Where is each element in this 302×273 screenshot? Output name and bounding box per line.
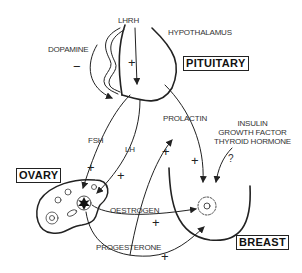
sign-lh: +: [117, 169, 125, 182]
label-pituitary: PITUITARY: [183, 56, 249, 71]
label-breast: BREAST: [236, 235, 289, 250]
label-lhrh: LHRH: [118, 16, 139, 25]
sign-fsh: +: [87, 161, 95, 174]
sign-other-factors: ?: [228, 154, 233, 163]
label-hypothalamus: HYPOTHALAMUS: [168, 28, 232, 37]
label-ovary: OVARY: [16, 168, 61, 183]
label-thyroid-hormone: THYROID HORMONE: [214, 137, 291, 146]
breast-cell: [198, 197, 216, 215]
sign-progesterone: +: [161, 250, 169, 263]
hormone-regulation-diagram: LHRH HYPOTHALAMUS DOPAMINE − + PITUITARY…: [0, 0, 302, 273]
pituitary-stalk: [119, 25, 125, 95]
sign-dopamine: −: [73, 60, 81, 73]
label-lh: LH: [125, 145, 135, 154]
label-progesterone: PROGESTERONE: [96, 243, 161, 252]
corpus-luteum: [78, 197, 90, 210]
label-insulin: INSULIN: [214, 119, 291, 128]
label-growth-factor: GROWTH FACTOR: [214, 128, 291, 137]
sign-lhrh: +: [128, 56, 136, 69]
label-prolactin: PROLACTIN: [163, 114, 207, 123]
ovary-outline: [37, 180, 108, 234]
label-oestrogen: OESTROGEN: [110, 206, 159, 215]
label-dopamine: DOPAMINE: [48, 45, 88, 54]
label-fsh: FSH: [88, 136, 103, 145]
label-other-factors: INSULIN GROWTH FACTOR THYROID HORMONE: [214, 119, 291, 146]
sign-prolactin: +: [162, 145, 170, 158]
sign-pituitary-breast: +: [191, 154, 199, 167]
sign-oestrogen: +: [152, 216, 160, 229]
